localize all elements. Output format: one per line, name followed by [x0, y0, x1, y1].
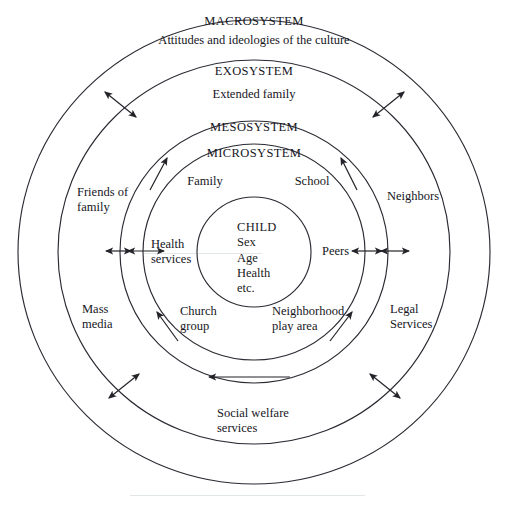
exosystem-node-legal-services: Legal Services	[390, 302, 432, 332]
microsystem-node-church-group: Church group	[180, 304, 217, 334]
microsystem-title: MICROSYSTEM	[207, 146, 302, 161]
scan-artifact-streak-upper	[142, 253, 262, 254]
microsystem-node-neighborhood-play-area: Neighborhood play area	[272, 304, 344, 334]
macrosystem-title: MACROSYSTEM	[204, 14, 304, 29]
arrow-micro-top-right	[341, 158, 357, 190]
exosystem-node-social-welfare-services: Social welfare services	[217, 406, 289, 436]
exosystem-subtitle: Extended family	[213, 87, 296, 102]
mesosystem-title: MESOSYSTEM	[210, 120, 298, 135]
child-heading: CHILD	[237, 220, 277, 235]
microsystem-node-health-services: Health services	[151, 237, 191, 267]
child-attribute-health: Health	[237, 266, 277, 281]
child-attribute-sex: Sex	[237, 235, 277, 250]
scan-artifact-streak-lower	[130, 495, 365, 496]
exosystem-title: EXOSYSTEM	[215, 64, 294, 79]
microsystem-node-peers: Peers	[322, 244, 349, 259]
exosystem-node-mass-media: Mass media	[82, 302, 113, 332]
exosystem-node-friends-of-family: Friends of family	[77, 185, 128, 215]
ecological-systems-diagram: MACROSYSTEM Attitudes and ideologies of …	[0, 0, 509, 506]
exosystem-node-neighbors: Neighbors	[387, 189, 439, 204]
arrow-exo-upper-left	[105, 92, 136, 117]
microsystem-node-school: School	[295, 174, 330, 189]
child-attribute-etc: etc.	[237, 281, 277, 296]
arrow-exo-upper-right	[373, 92, 404, 117]
arrow-micro-top-left	[150, 158, 167, 190]
arrow-micro-bottom-left	[157, 312, 178, 341]
child-core-block: CHILD Sex Age Health etc.	[237, 220, 277, 296]
macrosystem-subtitle: Attitudes and ideologies of the culture	[158, 33, 349, 48]
microsystem-node-family: Family	[187, 174, 222, 189]
